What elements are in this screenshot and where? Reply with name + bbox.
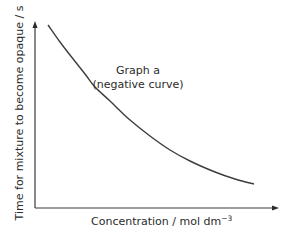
x-axis-arrow-icon <box>272 206 279 211</box>
x-axis-label-sup: −3 <box>221 214 232 223</box>
graph-a-curve <box>48 25 254 184</box>
y-axis-arrow-icon <box>33 21 38 28</box>
chart: Graph a (negative curve) Concentration /… <box>0 0 295 239</box>
x-axis-label-main: Concentration / mol dm <box>91 215 221 228</box>
annotation-subtitle: (negative curve) <box>92 78 183 91</box>
y-axis-label: Time for mixture to become opaque / s <box>13 5 26 221</box>
x-axis-label: Concentration / mol dm−3 <box>91 214 233 228</box>
annotation-title: Graph a <box>116 64 160 77</box>
